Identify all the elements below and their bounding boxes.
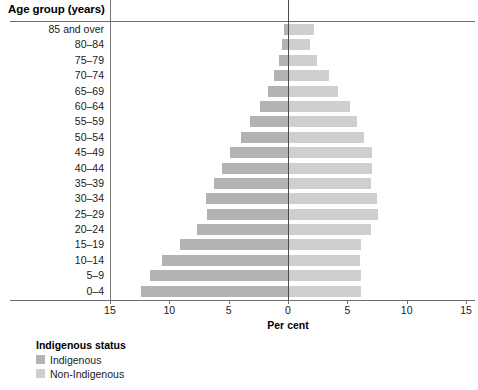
age-group-label: 0–4 [0, 284, 104, 299]
age-group-label: 85 and over [0, 22, 104, 37]
age-group-label: 30–34 [0, 191, 104, 206]
bar-row: 20–24 [0, 222, 478, 237]
bar-indigenous [180, 239, 288, 250]
bar-non-indigenous [289, 24, 314, 35]
bar-indigenous [230, 147, 288, 158]
bar-indigenous [214, 178, 288, 189]
age-group-label: 55–59 [0, 114, 104, 129]
bar-row: 10–14 [0, 253, 478, 268]
zero-axis-line [288, 0, 289, 301]
bar-non-indigenous [289, 70, 329, 81]
bar-row: 50–54 [0, 130, 478, 145]
bar-row: 25–29 [0, 207, 478, 222]
bar-row: 85 and over [0, 22, 478, 37]
bar-non-indigenous [289, 178, 371, 189]
bar-non-indigenous [289, 255, 360, 266]
bar-indigenous [222, 163, 288, 174]
bar-non-indigenous [289, 193, 377, 204]
x-axis-tick-label: 15 [460, 304, 472, 316]
age-group-label: 50–54 [0, 130, 104, 145]
x-axis-tick-label: 10 [401, 304, 413, 316]
bar-indigenous [250, 116, 288, 127]
bar-row: 60–64 [0, 99, 478, 114]
bar-non-indigenous [289, 224, 371, 235]
bar-non-indigenous [289, 116, 357, 127]
x-axis: Per cent 15105051015 [0, 300, 478, 330]
bar-indigenous [241, 132, 288, 143]
bar-rows: 85 and over80–8475–7970–7465–6960–6455–5… [0, 22, 478, 300]
bar-row: 70–74 [0, 68, 478, 83]
bar-non-indigenous [289, 55, 317, 66]
x-axis-tick-label: 5 [226, 304, 232, 316]
x-axis-tick-label: 5 [344, 304, 350, 316]
age-group-label: 5–9 [0, 268, 104, 283]
bar-indigenous [268, 86, 288, 97]
bar-indigenous [279, 55, 288, 66]
bar-row: 30–34 [0, 191, 478, 206]
bar-indigenous [162, 255, 288, 266]
bar-row: 65–69 [0, 84, 478, 99]
age-group-label: 60–64 [0, 99, 104, 114]
bar-row: 45–49 [0, 145, 478, 160]
bar-indigenous [206, 193, 288, 204]
bar-non-indigenous [289, 86, 338, 97]
bar-non-indigenous [289, 101, 350, 112]
bar-non-indigenous [289, 239, 361, 250]
legend-item-non-indigenous: Non-Indigenous [36, 367, 256, 380]
age-group-label: 10–14 [0, 253, 104, 268]
bar-row: 0–4 [0, 284, 478, 299]
bar-non-indigenous [289, 286, 361, 297]
legend-label: Non-Indigenous [50, 368, 124, 380]
bar-non-indigenous [289, 147, 372, 158]
age-group-label: 35–39 [0, 176, 104, 191]
legend-swatch-non-indigenous [36, 369, 45, 378]
chart-root: Age group (years) 85 and over80–8475–797… [0, 0, 478, 390]
age-group-label: 65–69 [0, 84, 104, 99]
legend-item-indigenous: Indigenous [36, 353, 256, 366]
legend-title: Indigenous status [36, 339, 256, 351]
age-group-label: 40–44 [0, 161, 104, 176]
bar-non-indigenous [289, 209, 378, 220]
bar-row: 40–44 [0, 161, 478, 176]
y-axis-title: Age group (years) [8, 3, 105, 15]
bar-row: 55–59 [0, 114, 478, 129]
plot-area: 85 and over80–8475–7970–7465–6960–6455–5… [0, 22, 478, 300]
bar-non-indigenous [289, 39, 310, 50]
bar-row: 80–84 [0, 37, 478, 52]
age-group-label: 25–29 [0, 207, 104, 222]
x-axis-tick-label: 0 [285, 304, 291, 316]
legend: Indigenous status IndigenousNon-Indigeno… [36, 339, 256, 381]
age-group-label: 80–84 [0, 37, 104, 52]
age-group-label: 45–49 [0, 145, 104, 160]
age-group-label: 70–74 [0, 68, 104, 83]
legend-label: Indigenous [50, 354, 101, 366]
age-group-label: 75–79 [0, 53, 104, 68]
bar-indigenous [207, 209, 288, 220]
bar-non-indigenous [289, 270, 361, 281]
bar-row: 5–9 [0, 268, 478, 283]
chart-header: Age group (years) [0, 0, 478, 21]
x-axis-tick-label: 15 [104, 304, 116, 316]
bar-indigenous [150, 270, 288, 281]
age-group-label: 15–19 [0, 237, 104, 252]
bar-row: 35–39 [0, 176, 478, 191]
legend-items: IndigenousNon-Indigenous [36, 353, 256, 380]
age-group-label: 20–24 [0, 222, 104, 237]
bar-indigenous [197, 224, 288, 235]
bar-row: 15–19 [0, 237, 478, 252]
x-axis-tick-label: 10 [163, 304, 175, 316]
x-axis-title: Per cent [267, 319, 308, 331]
bar-non-indigenous [289, 163, 372, 174]
bar-non-indigenous [289, 132, 364, 143]
legend-swatch-indigenous [36, 355, 45, 364]
bar-indigenous [274, 70, 288, 81]
bar-row: 75–79 [0, 53, 478, 68]
bar-indigenous [260, 101, 288, 112]
bar-indigenous [141, 286, 288, 297]
